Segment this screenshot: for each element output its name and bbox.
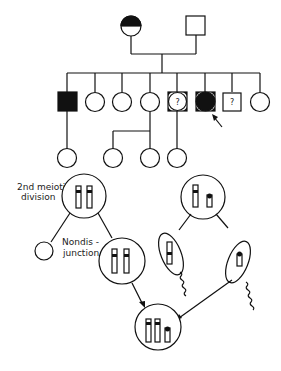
pedigree-diagram: ? ? 2nd meiotic division Nondis - juncti… — [0, 0, 281, 371]
affected-male-ii1 — [58, 92, 77, 111]
father-symbol — [186, 16, 205, 35]
label-division: division — [21, 192, 55, 202]
proband-ii6 — [196, 92, 215, 111]
nondisjunction-egg — [99, 238, 145, 284]
question-mark: ? — [230, 98, 234, 107]
female-iii2 — [104, 149, 123, 168]
mother-symbol — [121, 16, 141, 36]
maternal-cell-top — [62, 174, 106, 218]
label-nondis: Nondis - — [62, 237, 99, 247]
sibship-drops — [67, 73, 260, 92]
label-junction: junction — [62, 248, 99, 258]
female-ii2 — [86, 93, 105, 112]
sperm-2 — [220, 238, 255, 310]
proband-arrow-icon — [212, 114, 222, 127]
polar-body — [35, 242, 53, 260]
trisomic-zygote — [135, 304, 181, 350]
sperm-1 — [153, 230, 188, 296]
uncertain-ii5: ? — [168, 92, 187, 111]
female-iii4 — [168, 149, 187, 168]
paternal-cell-top — [181, 175, 225, 219]
female-ii8 — [251, 93, 270, 112]
female-ii4 — [141, 93, 160, 112]
female-iii1 — [58, 149, 77, 168]
female-ii3 — [113, 93, 132, 112]
uncertain-male-ii7: ? — [223, 93, 241, 111]
female-iii3 — [141, 149, 160, 168]
arrow-head-icon — [139, 301, 145, 308]
question-mark: ? — [175, 98, 179, 107]
